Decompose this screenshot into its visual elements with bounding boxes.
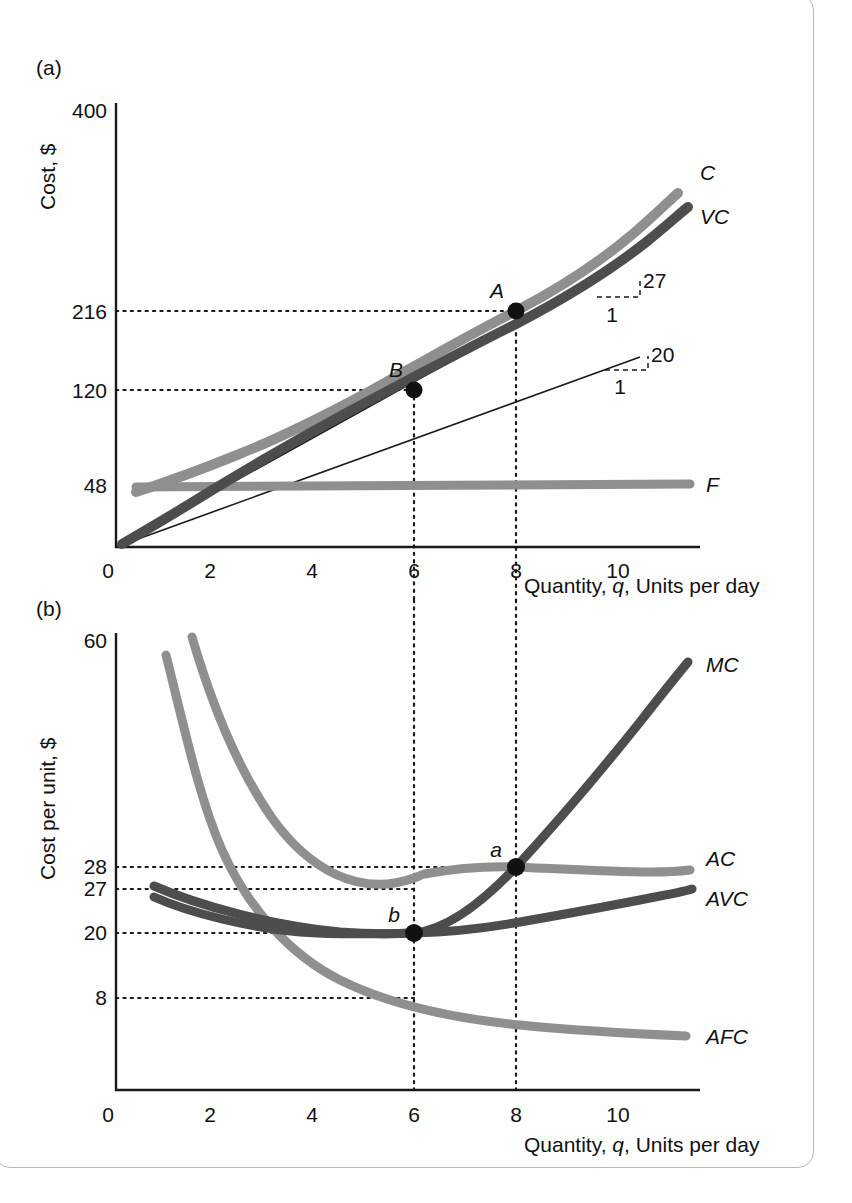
panel-a-ytick-400: 400 — [72, 99, 107, 122]
curve-label-F: F — [706, 473, 720, 496]
point-b-label: b — [388, 903, 400, 926]
point-B-marker — [406, 382, 423, 399]
curve-marginal-cost — [154, 662, 688, 934]
curve-average-fixed-cost — [166, 655, 686, 1036]
panel-a-ytick-120: 120 — [72, 379, 107, 402]
panel-b-xtick-0: 0 — [102, 1103, 114, 1126]
panel-a-xtick-0: 0 — [102, 559, 114, 582]
curve-total-cost — [136, 193, 678, 492]
curve-label-C: C — [700, 161, 716, 184]
panel-b-ytick-27: 27 — [84, 877, 107, 900]
curve-average-cost — [192, 637, 690, 884]
panel-a-xtick-2: 2 — [204, 559, 216, 582]
panel-a-xtick-4: 4 — [306, 559, 318, 582]
curve-label-AVC: AVC — [704, 887, 749, 910]
slope-run-1-label-C: 1 — [606, 303, 618, 326]
figure-sheet: (a) Cost, $ (b) Cost per unit, $ 400 216… — [0, 0, 852, 1203]
point-A-marker — [508, 303, 525, 320]
panel-b-ytick-60: 60 — [84, 629, 107, 652]
panel-b-plot: 60 28 27 20 8 0 2 4 6 8 10 AFC AC — [84, 600, 760, 1156]
curve-label-AC: AC — [704, 847, 736, 870]
panel-b-xtick-10: 10 — [606, 1103, 629, 1126]
panel-b-axes — [116, 633, 700, 1090]
panel-a-plot: 400 216 120 48 0 2 4 6 8 10 27 1 — [72, 99, 760, 600]
slope-rise-20-label: 20 — [651, 343, 674, 366]
point-a-label: a — [490, 838, 502, 861]
panel-b-x-axis-label: Quantity, q, Units per day — [524, 1133, 760, 1156]
panel-b-xtick-4: 4 — [306, 1103, 318, 1126]
slope-rise-27-label: 27 — [643, 269, 666, 292]
panel-b-xtick-6: 6 — [408, 1103, 420, 1126]
curve-label-MC: MC — [706, 653, 739, 676]
point-A-label: A — [488, 279, 504, 302]
panel-a-ytick-216: 216 — [72, 300, 107, 323]
cost-curves-figure: 400 216 120 48 0 2 4 6 8 10 27 1 — [0, 0, 852, 1203]
point-b-marker — [405, 924, 423, 942]
point-B-label: B — [389, 358, 403, 381]
slope-triangle-27 — [597, 279, 640, 297]
panel-a-ytick-48: 48 — [84, 474, 107, 497]
panel-b-ytick-8: 8 — [95, 986, 107, 1009]
panel-b-xtick-8: 8 — [510, 1103, 522, 1126]
point-a-marker — [507, 858, 525, 876]
panel-b-ytick-20: 20 — [84, 921, 107, 944]
slope-run-1-label-VC: 1 — [614, 375, 626, 398]
curve-label-VC: VC — [700, 205, 730, 228]
panel-a-x-axis-label: Quantity, q, Units per day — [524, 574, 760, 597]
panel-b-ytick-28: 28 — [84, 855, 107, 878]
panel-b-xtick-2: 2 — [204, 1103, 216, 1126]
curve-label-AFC: AFC — [704, 1025, 749, 1048]
